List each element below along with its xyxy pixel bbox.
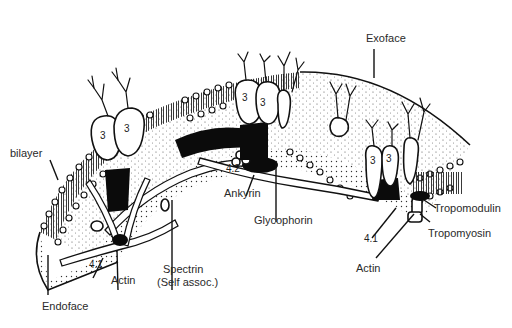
band3-marker: 3 — [386, 153, 392, 164]
label-band-4-2: 4.2 — [226, 163, 240, 174]
band3-marker: 3 — [124, 123, 130, 134]
label-glycophorin: Glycophorin — [254, 214, 313, 226]
label-tropomyosin: Tropomyosin — [428, 227, 491, 239]
label-ankyrin: Ankyrin — [224, 187, 261, 199]
label-spectrin: Spectrin — [163, 263, 203, 275]
label-band-4-1-left: 4.1 — [89, 259, 103, 270]
label-exoface: Exoface — [366, 32, 406, 44]
label-spectrin-self-assoc: (Self assoc.) — [157, 276, 218, 288]
band3-marker: 3 — [100, 130, 106, 141]
membrane-skeleton-diagram: 3 3 3 3 3 3 — [0, 0, 512, 328]
band3-marker: 3 — [370, 155, 376, 166]
label-bilayer: bilayer — [10, 147, 43, 159]
label-tropomodulin: Tropomodulin — [434, 202, 501, 214]
band3-marker: 3 — [242, 92, 248, 103]
label-band-4-1-right: 4.1 — [364, 233, 378, 244]
band3-marker: 3 — [260, 97, 266, 108]
label-endoface: Endoface — [42, 300, 88, 312]
label-actin-left: Actin — [111, 274, 135, 286]
label-actin-right: Actin — [356, 262, 380, 274]
